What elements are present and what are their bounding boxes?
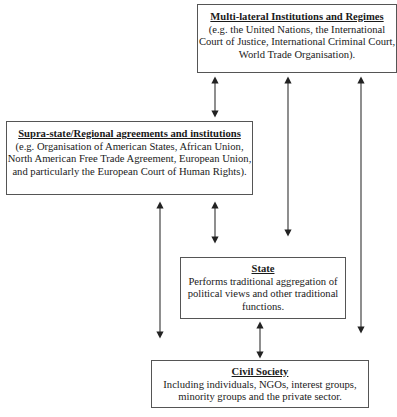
box-title: Multi-lateral Institutions and Regimes	[198, 11, 396, 24]
box-description: (e.g. Organisation of American States, A…	[7, 141, 252, 179]
box-title: Civil Society	[152, 366, 368, 379]
box-civil-society: Civil Society Including individuals, NGO…	[151, 360, 369, 408]
box-title: State	[181, 263, 345, 276]
box-description: (e.g. the United Nations, the Internatio…	[198, 24, 396, 62]
box-description: Including individuals, NGOs, interest gr…	[152, 379, 368, 404]
box-description: Performs traditional aggregation of poli…	[181, 276, 345, 314]
box-supra-state-regional: Supra-state/Regional agreements and inst…	[6, 121, 253, 195]
box-state: State Performs traditional aggregation o…	[180, 257, 346, 319]
box-title: Supra-state/Regional agreements and inst…	[7, 128, 252, 141]
box-multilateral-institutions: Multi-lateral Institutions and Regimes (…	[197, 4, 397, 73]
